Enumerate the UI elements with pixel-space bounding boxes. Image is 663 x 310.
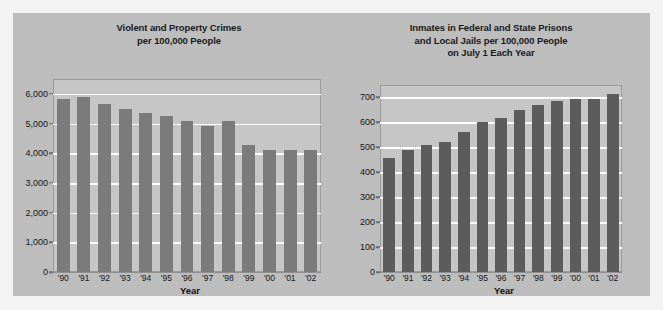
x-tick-label: '96 [181,273,192,283]
bar [242,145,255,272]
chart-title-left: Violent and Property Crimesper 100,000 P… [25,22,333,47]
bar [514,110,526,272]
y-tick-label: 500 [360,142,375,152]
bar [551,101,563,272]
chart-title-line: per 100,000 People [25,35,333,48]
chart-violent-and-property-crimes: Violent and Property Crimesper 100,000 P… [25,13,333,296]
bar [77,97,90,272]
bar [495,118,507,272]
x-axis-title-right: Year [344,285,638,296]
y-tick-label: 3,000 [25,178,48,188]
chart-title-line: and Local Jails per 100,000 People [344,35,638,48]
y-tick-label: 600 [360,117,375,127]
figure-root: Violent and Property Crimesper 100,000 P… [0,0,663,310]
x-tick-label: '97 [202,273,213,283]
y-tick-label: 300 [360,192,375,202]
bar [119,109,132,272]
bar [160,116,173,272]
bar [139,113,152,272]
bar [98,104,111,272]
x-tick-label: '92 [421,273,432,283]
chart-title-line: on July 1 Each Year [344,47,638,60]
bar [383,158,395,272]
bar-series-left [53,79,321,272]
x-tick-label: '96 [495,273,506,283]
y-tick-label: 2,000 [25,208,48,218]
bar [201,126,214,272]
x-tick-label: '92 [99,273,110,283]
x-tick-label: '00 [264,273,275,283]
x-tick-label: '95 [477,273,488,283]
plot-area-left: 01,0002,0003,0004,0005,0006,000 [53,79,321,272]
bar [588,99,600,272]
x-tick-label: '91 [402,273,413,283]
x-tick-label: '99 [551,273,562,283]
bar [402,150,414,272]
x-axis-title-left: Year [25,285,333,296]
y-tick-label: 4,000 [25,148,48,158]
x-tick-label: '90 [58,273,69,283]
bar [421,145,433,272]
bar [263,150,276,272]
bar [607,94,619,272]
bar [222,121,235,272]
x-tick-label: '93 [440,273,451,283]
y-tick-label: 200 [360,217,375,227]
x-tick-label: '94 [140,273,151,283]
x-tick-label: '97 [514,273,525,283]
x-tick-label: '01 [285,273,296,283]
bar [477,122,489,272]
y-tick-label: 1,000 [25,237,48,247]
bar [284,150,297,272]
x-tick-label: '90 [384,273,395,283]
bar-series-right [380,85,622,272]
x-tick-label: '99 [243,273,254,283]
bar [304,150,317,272]
y-tick-label: 5,000 [25,119,48,129]
bar [458,132,470,272]
bar [570,99,582,272]
x-tick-label: '02 [607,273,618,283]
chart-title-right: Inmates in Federal and State Prisonsand … [344,22,638,60]
y-tick-label: 100 [360,242,375,252]
x-tick-label: '93 [120,273,131,283]
bar [181,121,194,272]
bar [439,142,451,272]
y-tick-label: 6,000 [25,89,48,99]
x-tick-label: '01 [589,273,600,283]
x-tick-label: '02 [305,273,316,283]
plot-area-right: 0100200300400500600700 [380,85,622,272]
chart-title-line: Violent and Property Crimes [25,22,333,35]
chart-inmates-per-100000: Inmates in Federal and State Prisonsand … [344,13,638,296]
chart-title-line: Inmates in Federal and State Prisons [344,22,638,35]
x-tick-label: '91 [78,273,89,283]
bar [532,105,544,272]
x-tick-label: '98 [223,273,234,283]
x-tick-label: '98 [533,273,544,283]
y-tick-label: 700 [360,92,375,102]
y-tick-label: 400 [360,167,375,177]
figure-panel: Violent and Property Crimesper 100,000 P… [13,13,650,296]
bar [57,99,70,272]
x-tick-label: '95 [161,273,172,283]
x-tick-label: '00 [570,273,581,283]
x-tick-label: '94 [458,273,469,283]
